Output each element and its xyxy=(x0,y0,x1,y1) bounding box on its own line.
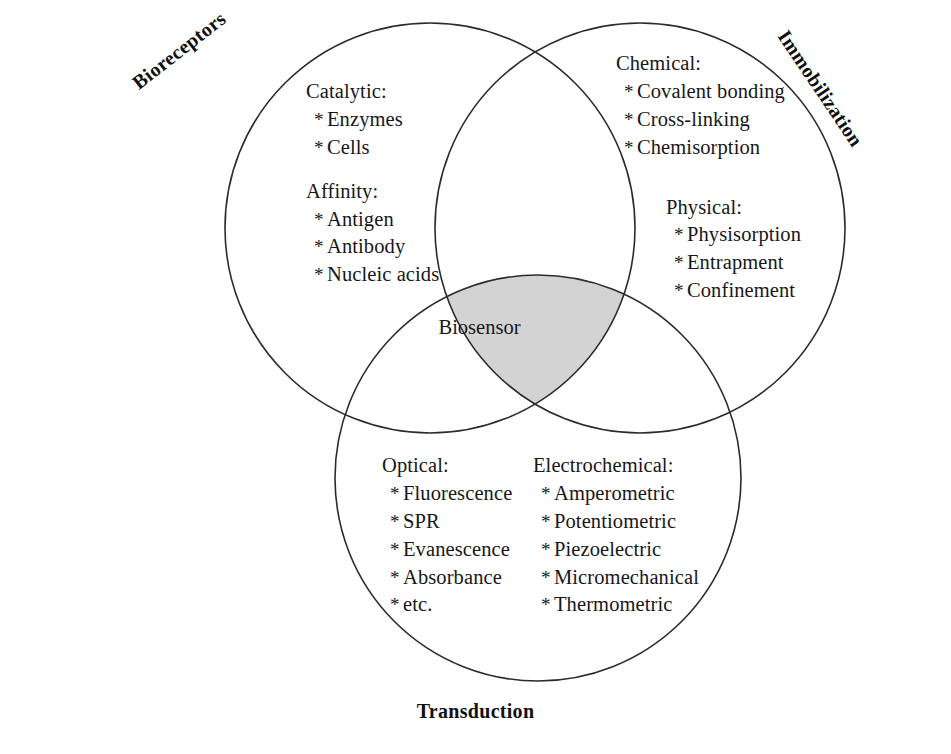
list-item: *Chemisorption xyxy=(616,134,801,162)
group-spacer xyxy=(616,178,801,194)
list-item: *Antibody xyxy=(306,233,439,261)
list-item-label: Entrapment xyxy=(687,251,784,273)
bullet-glyph: * xyxy=(541,565,554,591)
list-item-label: Nucleic acids xyxy=(327,263,439,285)
list-item-label: SPR xyxy=(403,510,440,532)
list-item-label: Cells xyxy=(327,136,370,158)
list-item: *Cells xyxy=(306,134,439,162)
list-item: *Nucleic acids xyxy=(306,261,439,289)
immobilization-content: Chemical: *Covalent bonding *Cross-linki… xyxy=(616,50,801,305)
list-item-label: Confinement xyxy=(687,279,795,301)
bullet-glyph: * xyxy=(624,107,637,133)
list-item: *Enzymes xyxy=(306,106,439,134)
group-heading-affinity: Affinity: xyxy=(306,178,439,206)
bioreceptors-content: Catalytic: *Enzymes *Cells Affinity: *An… xyxy=(306,78,439,289)
group-spacer xyxy=(616,162,801,178)
group-heading-physical: Physical: xyxy=(616,194,801,222)
bullet-glyph: * xyxy=(314,262,327,288)
bullet-glyph: * xyxy=(541,509,554,535)
list-item: *Physisorption xyxy=(616,221,801,249)
group-heading-chemical: Chemical: xyxy=(616,50,801,78)
bullet-glyph: * xyxy=(674,222,687,248)
list-item-label: Potentiometric xyxy=(554,510,676,532)
list-item: *Amperometric xyxy=(533,480,699,508)
list-item-label: Physisorption xyxy=(687,223,801,245)
list-item-label: Amperometric xyxy=(554,482,675,504)
list-item: *Absorbance xyxy=(382,564,512,592)
bullet-glyph: * xyxy=(314,234,327,260)
list-item: *Antigen xyxy=(306,206,439,234)
list-item: *Evanescence xyxy=(382,536,512,564)
list-item-label: Absorbance xyxy=(403,566,502,588)
bullet-glyph: * xyxy=(314,207,327,233)
list-item: *Confinement xyxy=(616,277,801,305)
list-item: *Potentiometric xyxy=(533,508,699,536)
list-item-label: Antibody xyxy=(327,235,405,257)
list-item: *Cross-linking xyxy=(616,106,801,134)
transduction-optical-content: Optical: *Fluorescence *SPR *Evanescence… xyxy=(382,452,512,619)
list-item: *Piezoelectric xyxy=(533,536,699,564)
list-item-label: Piezoelectric xyxy=(554,538,661,560)
biosensor-center-label: Biosensor xyxy=(0,316,951,339)
bullet-glyph: * xyxy=(541,592,554,618)
list-item-label: Cross-linking xyxy=(637,108,750,130)
list-item-label: Thermometric xyxy=(554,593,672,615)
list-item: *Covalent bonding xyxy=(616,78,801,106)
bullet-glyph: * xyxy=(674,250,687,276)
bullet-glyph: * xyxy=(624,135,637,161)
bullet-glyph: * xyxy=(624,79,637,105)
list-item-label: Micromechanical xyxy=(554,566,699,588)
bullet-glyph: * xyxy=(541,481,554,507)
set-label-transduction: Transduction xyxy=(0,700,951,723)
group-heading-catalytic: Catalytic: xyxy=(306,78,439,106)
bullet-glyph: * xyxy=(390,592,403,618)
list-item: *Entrapment xyxy=(616,249,801,277)
list-item-label: etc. xyxy=(403,593,432,615)
group-spacer xyxy=(306,162,439,178)
list-item: *Thermometric xyxy=(533,591,699,619)
list-item: *SPR xyxy=(382,508,512,536)
list-item: *Fluorescence xyxy=(382,480,512,508)
bullet-glyph: * xyxy=(314,107,327,133)
list-item-label: Evanescence xyxy=(403,538,510,560)
bullet-glyph: * xyxy=(390,537,403,563)
group-heading-optical: Optical: xyxy=(382,452,512,480)
list-item: *Micromechanical xyxy=(533,564,699,592)
list-item-label: Covalent bonding xyxy=(637,80,785,102)
group-heading-electrochemical: Electrochemical: xyxy=(533,452,699,480)
list-item-label: Chemisorption xyxy=(637,136,760,158)
bullet-glyph: * xyxy=(314,135,327,161)
biosensor-label-text: Biosensor xyxy=(439,316,521,338)
bullet-glyph: * xyxy=(674,278,687,304)
list-item: *etc. xyxy=(382,591,512,619)
bullet-glyph: * xyxy=(390,481,403,507)
list-item-label: Enzymes xyxy=(327,108,403,130)
list-item-label: Fluorescence xyxy=(403,482,512,504)
bullet-glyph: * xyxy=(390,565,403,591)
bullet-glyph: * xyxy=(541,537,554,563)
venn-circles-svg xyxy=(0,0,951,754)
venn-diagram: Catalytic: *Enzymes *Cells Affinity: *An… xyxy=(0,0,951,754)
bullet-glyph: * xyxy=(390,509,403,535)
list-item-label: Antigen xyxy=(327,208,394,230)
transduction-electrochemical-content: Electrochemical: *Amperometric *Potentio… xyxy=(533,452,699,619)
